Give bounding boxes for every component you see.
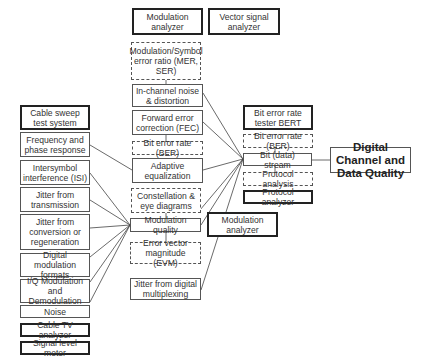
jitter-conversion-label: Jitter from conversion or regeneration (23, 217, 87, 247)
vector-signal-analyzer-label: Vector signal analyzer (212, 12, 276, 32)
diagram-title: Digital Channel and Data Quality (333, 141, 408, 180)
freq-phase-label: Frequency and phase response (23, 135, 87, 155)
evm-label: Error vector magnitude (EVM) (133, 238, 198, 268)
iq-mod-label: I/Q Modulation and Demodulation (23, 276, 87, 306)
cable-tv-analyzer-box: Cable TV analyzer (20, 323, 90, 337)
ber-left-label: Bit error rate (BER) (135, 138, 200, 158)
modulation-quality-box: Modulation quality (130, 218, 201, 232)
signal-level-meter-label: Signal level meter (24, 338, 86, 358)
isi-label: Intersymbol interference (ISI) (23, 163, 87, 183)
in-channel-noise-box: In-channel noise & distortion (132, 84, 203, 107)
adaptive-equalization-label: Adaptive equalization (135, 161, 200, 181)
ber-right-box: Bit error rate (BER) (243, 134, 313, 148)
modulation-quality-label: Modulation quality (133, 215, 198, 235)
diagram-title-box: Digital Channel and Data Quality (330, 147, 411, 173)
jitter-transmission-label: Jitter from transmission (23, 190, 87, 210)
ber-right-label: Bit error rate (BER) (246, 131, 310, 151)
bert-label: Bit error rate tester BERT (247, 108, 309, 128)
modulation-analyzer-mid-label: Modulation analyzer (211, 215, 274, 235)
digital-mod-formats-box: Digital modulation formats (20, 253, 90, 277)
mer-ser-label: Modulation/Symbol error ratio (MER, SER) (129, 46, 202, 76)
modulation-analyzer-mid-box: Modulation analyzer (207, 212, 278, 237)
fec-box: Forward error correction (FEC) (132, 110, 203, 135)
signal-level-meter-box: Signal level meter (20, 341, 90, 355)
constellation-label: Constellation & eye diagrams (134, 191, 198, 211)
modulation-analyzer-top-label: Modulation analyzer (136, 12, 199, 32)
bit-stream-box: Bit (data) stream (243, 153, 312, 166)
protocol-analyzer-box: Protocol analyzer (243, 190, 313, 204)
cable-sweep-box: Cable sweep test system (20, 105, 90, 130)
noise-label: Noise (44, 307, 66, 317)
cable-sweep-label: Cable sweep test system (24, 108, 86, 128)
protocol-analysis-box: Protocol analysis (243, 172, 313, 186)
jitter-conversion-box: Jitter from conversion or regeneration (20, 214, 90, 250)
noise-box: Noise (20, 305, 90, 318)
freq-phase-box: Frequency and phase response (20, 132, 90, 157)
mer-ser-box: Modulation/Symbol error ratio (MER, SER) (131, 42, 201, 80)
bert-box: Bit error rate tester BERT (243, 105, 313, 130)
jitter-mux-label: Jitter from digital multiplexing (133, 279, 198, 299)
in-channel-noise-label: In-channel noise & distortion (135, 86, 200, 106)
iq-mod-box: I/Q Modulation and Demodulation (20, 279, 90, 303)
cable-tv-analyzer-label: Cable TV analyzer (24, 320, 86, 340)
modulation-analyzer-top-box: Modulation analyzer (132, 8, 203, 35)
jitter-transmission-box: Jitter from transmission (20, 187, 90, 212)
ber-left-box: Bit error rate (BER) (132, 141, 203, 155)
constellation-box: Constellation & eye diagrams (131, 188, 201, 213)
bit-stream-label: Bit (data) stream (246, 150, 309, 170)
isi-box: Intersymbol interference (ISI) (20, 160, 90, 185)
evm-box: Error vector magnitude (EVM) (130, 242, 201, 264)
protocol-analyzer-label: Protocol analyzer (247, 187, 309, 207)
jitter-mux-box: Jitter from digital multiplexing (130, 278, 201, 300)
protocol-analysis-label: Protocol analysis (246, 169, 310, 189)
adaptive-equalization-box: Adaptive equalization (132, 158, 203, 183)
vector-signal-analyzer-box: Vector signal analyzer (208, 8, 280, 35)
fec-label: Forward error correction (FEC) (135, 113, 200, 133)
